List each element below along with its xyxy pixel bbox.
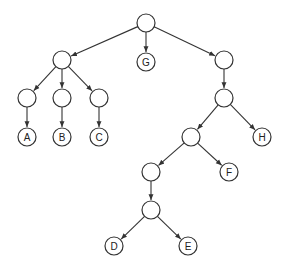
node-internal — [53, 51, 71, 69]
node-circle — [142, 163, 160, 181]
node-circle — [215, 89, 233, 107]
node-circle — [53, 51, 71, 69]
node-internal — [18, 89, 36, 107]
edge-arrow — [230, 104, 255, 129]
node-label: G — [142, 57, 150, 68]
edge-arrow — [121, 216, 144, 239]
node-h: H — [253, 128, 271, 146]
node-e: E — [179, 237, 197, 255]
node-circle — [53, 89, 71, 107]
node-label: C — [95, 132, 102, 143]
node-internal — [182, 128, 200, 146]
node-c: C — [90, 128, 108, 146]
node-label: F — [226, 167, 232, 178]
node-circle — [215, 51, 233, 69]
node-internal — [215, 51, 233, 69]
nodes-layer: GABCHFDE — [18, 14, 271, 255]
edge-arrow — [157, 216, 180, 239]
node-label: B — [59, 132, 66, 143]
node-internal — [137, 14, 155, 32]
tree-diagram: GABCHFDE — [0, 0, 286, 274]
node-b: B — [53, 128, 71, 146]
node-label: E — [185, 241, 192, 252]
node-circle — [137, 14, 155, 32]
node-circle — [18, 89, 36, 107]
edge-arrow — [154, 27, 215, 56]
edge-arrow — [197, 105, 218, 129]
node-circle — [90, 89, 108, 107]
node-internal — [90, 89, 108, 107]
edge-arrow — [68, 66, 92, 90]
node-internal — [53, 89, 71, 107]
node-internal — [142, 163, 160, 181]
node-internal — [215, 89, 233, 107]
edge-arrow — [159, 143, 185, 165]
node-a: A — [18, 128, 36, 146]
edge-arrow — [71, 27, 138, 56]
node-label: H — [258, 132, 265, 143]
node-label: A — [24, 132, 31, 143]
node-d: D — [105, 237, 123, 255]
node-label: D — [110, 241, 117, 252]
node-circle — [142, 201, 160, 219]
node-g: G — [137, 53, 155, 71]
node-f: F — [220, 163, 238, 181]
edge-arrow — [198, 143, 222, 165]
node-circle — [182, 128, 200, 146]
node-internal — [142, 201, 160, 219]
edge-arrow — [34, 67, 56, 91]
